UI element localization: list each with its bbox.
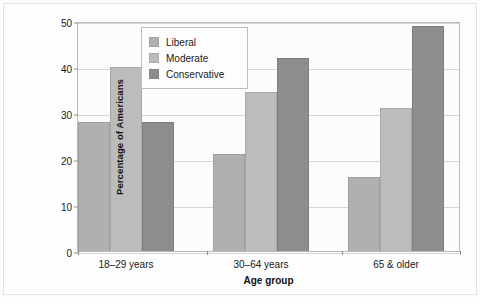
x-axis-tick-mark <box>207 251 208 255</box>
bar <box>245 92 277 251</box>
x-axis-tick-mark <box>78 251 79 255</box>
y-axis-tick-label: 0 <box>66 248 72 259</box>
y-axis-tick-label: 30 <box>61 110 72 121</box>
bar <box>213 154 245 251</box>
bar-group <box>348 23 444 251</box>
bar <box>277 58 309 251</box>
legend-swatch-icon <box>149 53 159 63</box>
bar <box>380 108 412 251</box>
x-axis-tick-mark <box>342 251 343 255</box>
x-axis-title: Age group <box>244 275 294 286</box>
y-axis-tick-label: 10 <box>61 202 72 213</box>
legend-item: Liberal <box>149 34 239 50</box>
x-axis-tick-mark <box>460 251 461 255</box>
gridline <box>78 253 459 254</box>
x-axis-tick-label: 18–29 years <box>98 259 153 270</box>
bar <box>412 26 444 251</box>
legend-item: Moderate <box>149 50 239 66</box>
chart-legend: LiberalModerateConservative <box>141 27 248 89</box>
chart-page: 01020304050 18–29 years30–64 years65 & o… <box>0 0 480 305</box>
legend-item: Conservative <box>149 66 239 82</box>
y-axis-tick-label: 20 <box>61 156 72 167</box>
legend-swatch-icon <box>149 37 159 47</box>
legend-swatch-icon <box>149 69 159 79</box>
bar <box>78 122 110 251</box>
legend-label: Moderate <box>166 53 208 64</box>
y-axis-tick-label: 40 <box>61 64 72 75</box>
x-axis-tick-label: 65 & older <box>373 259 419 270</box>
x-axis-tick-label: 30–64 years <box>233 259 288 270</box>
bar <box>142 122 174 251</box>
plot-area: 01020304050 18–29 years30–64 years65 & o… <box>77 22 460 252</box>
bar <box>348 177 380 251</box>
legend-label: Liberal <box>166 37 196 48</box>
legend-label: Conservative <box>166 69 224 80</box>
y-axis-title: Percentage of Americans <box>114 32 125 242</box>
y-axis-tick-label: 50 <box>61 18 72 29</box>
